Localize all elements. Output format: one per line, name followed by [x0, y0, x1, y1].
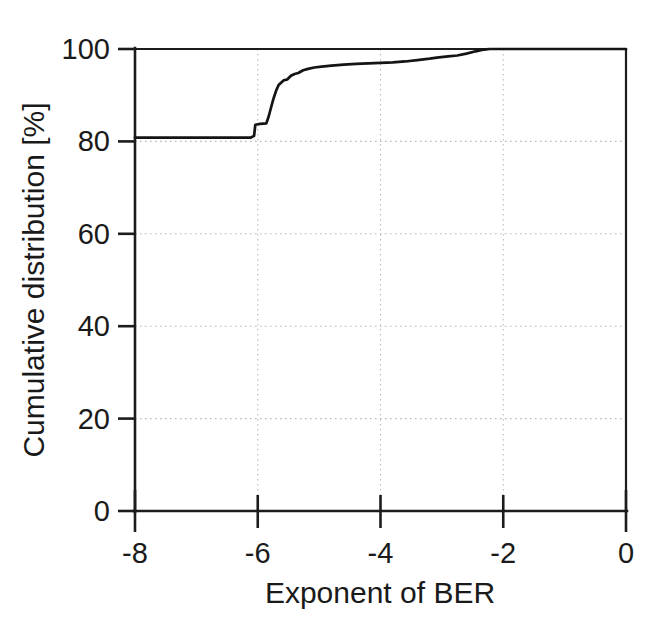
y-axis-title: Cumulative distribution [%]	[17, 102, 50, 457]
x-tick-label-minus2: -2	[490, 537, 516, 569]
y-tick-label-20: 20	[78, 403, 110, 435]
x-tick-labels: -8 -6 -4 -2 0	[122, 537, 634, 569]
y-tick-label-60: 60	[78, 218, 110, 250]
y-tick-marks	[118, 49, 135, 511]
x-tick-label-minus8: -8	[122, 537, 148, 569]
cdf-plot-svg: 0 20 40 60 80 100 -8 -6 -4 -2 0 Exponent…	[0, 0, 666, 625]
y-tick-labels: 0 20 40 60 80 100	[62, 33, 110, 527]
y-tick-label-80: 80	[78, 125, 110, 157]
y-tick-label-0: 0	[94, 495, 110, 527]
y-tick-label-100: 100	[62, 33, 110, 65]
gridlines-group	[135, 49, 626, 511]
x-axis-title: Exponent of BER	[265, 576, 495, 609]
y-tick-label-40: 40	[78, 310, 110, 342]
x-tick-label-0: 0	[618, 537, 634, 569]
x-tick-label-minus4: -4	[368, 537, 394, 569]
x-tick-label-minus6: -6	[245, 537, 271, 569]
chart-figure: 0 20 40 60 80 100 -8 -6 -4 -2 0 Exponent…	[0, 0, 666, 625]
